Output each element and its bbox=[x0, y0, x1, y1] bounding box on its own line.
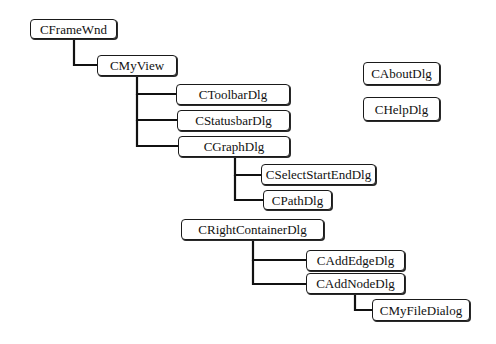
node-caboutdlg: CAboutDlg bbox=[363, 62, 440, 85]
node-cgraphdlg: CGraphDlg bbox=[178, 136, 290, 157]
connector-cmyview-to-cgraphdlg bbox=[137, 120, 178, 146]
class-hierarchy-diagram: CFrameWnd CMyView CToolbarDlg CStatusbar… bbox=[0, 0, 496, 344]
node-label: CRightContainerDlg bbox=[198, 223, 306, 236]
node-cselectstartenddlg: CSelectStartEndDlg bbox=[261, 164, 376, 185]
node-label: CSelectStartEndDlg bbox=[266, 168, 371, 181]
node-cmyview: CMyView bbox=[97, 55, 177, 76]
node-ctoolbardlg: CToolbarDlg bbox=[176, 84, 290, 105]
node-label: CGraphDlg bbox=[204, 140, 265, 153]
node-label: CAddNodeDlg bbox=[316, 277, 395, 290]
node-cpathdlg: CPathDlg bbox=[263, 190, 332, 210]
node-label: CStatusbarDlg bbox=[195, 114, 272, 127]
connector-crightcontainerdlg-to-caddedgedlg bbox=[253, 240, 306, 260]
connector-lines bbox=[0, 0, 496, 344]
node-caddnodedlg: CAddNodeDlg bbox=[306, 273, 405, 294]
node-caddedgedlg: CAddEdgeDlg bbox=[306, 250, 405, 271]
connector-caddnodedlg-to-cmyfiledialog bbox=[355, 294, 372, 310]
node-cmyfiledialog: CMyFileDialog bbox=[372, 299, 470, 321]
connector-cmyview-to-ctoolbardlg bbox=[137, 76, 176, 94]
connector-cmyview-to-cstatusbardlg bbox=[137, 94, 177, 120]
node-label: CPathDlg bbox=[272, 194, 323, 207]
node-label: CFrameWnd bbox=[40, 23, 107, 36]
connector-cframewnd-to-cmyview bbox=[74, 39, 97, 65]
node-cstatusbardlg: CStatusbarDlg bbox=[177, 110, 290, 131]
node-label: CToolbarDlg bbox=[199, 88, 267, 101]
node-label: CMyFileDialog bbox=[380, 304, 462, 317]
node-cframewnd: CFrameWnd bbox=[30, 19, 117, 39]
node-label: CAddEdgeDlg bbox=[317, 254, 394, 267]
connector-cgraphdlg-to-cpathdlg bbox=[235, 175, 263, 200]
node-crightcontainerdlg: CRightContainerDlg bbox=[181, 219, 324, 240]
connector-crightcontainerdlg-to-caddnodedlg bbox=[253, 260, 306, 284]
node-label: CHelpDlg bbox=[375, 103, 428, 116]
connector-cgraphdlg-to-cselectstartenddlg bbox=[235, 157, 261, 175]
node-label: CMyView bbox=[110, 59, 164, 72]
node-chelpdlg: CHelpDlg bbox=[363, 97, 440, 121]
node-label: CAboutDlg bbox=[371, 67, 432, 80]
